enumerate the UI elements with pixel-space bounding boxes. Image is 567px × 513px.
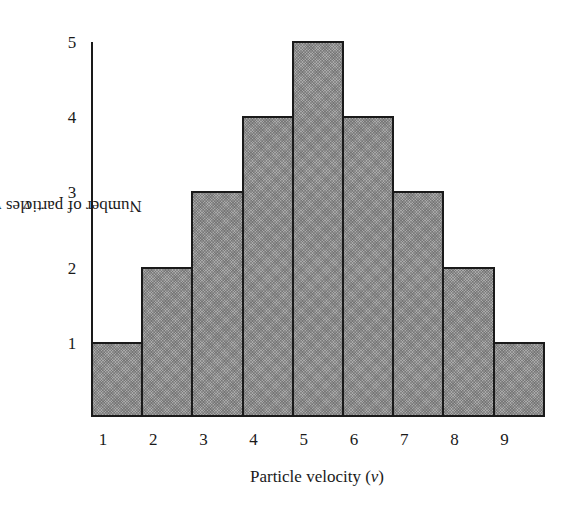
x-axis-title: Particle velocity (v) xyxy=(91,466,543,488)
bar-2 xyxy=(141,267,193,417)
y-tick-label: 5 xyxy=(62,33,82,53)
bar-6 xyxy=(342,116,394,417)
x-axis-title-suffix: ) xyxy=(378,467,384,486)
bar-3 xyxy=(191,191,243,417)
histogram-chart: 12345 123456789 Particle velocity (v) Nu… xyxy=(0,0,567,513)
bar-7 xyxy=(392,191,444,417)
y-tick-label: 1 xyxy=(62,334,82,354)
y-tick-label: 2 xyxy=(62,259,82,279)
bar-4 xyxy=(242,116,294,417)
y-axis-title-variable: v xyxy=(23,196,31,216)
x-tick-label: 6 xyxy=(329,430,379,450)
bar-8 xyxy=(442,267,494,417)
x-tick-label: 7 xyxy=(379,430,429,450)
y-tick-label: 4 xyxy=(62,108,82,128)
bar-5 xyxy=(292,41,344,417)
x-tick-label: 4 xyxy=(229,430,279,450)
x-tick-label: 5 xyxy=(279,430,329,450)
bar-1 xyxy=(91,342,143,417)
x-tick-label: 9 xyxy=(480,430,530,450)
x-axis-title-prefix: Particle velocity ( xyxy=(250,467,371,486)
x-tick-label: 2 xyxy=(128,430,178,450)
bar-9 xyxy=(493,342,545,417)
x-tick-label: 1 xyxy=(78,430,128,450)
x-tick-label: 8 xyxy=(429,430,479,450)
x-tick-label: 3 xyxy=(178,430,228,450)
y-axis-title-prefix: Number of particles with velocity xyxy=(0,196,142,216)
